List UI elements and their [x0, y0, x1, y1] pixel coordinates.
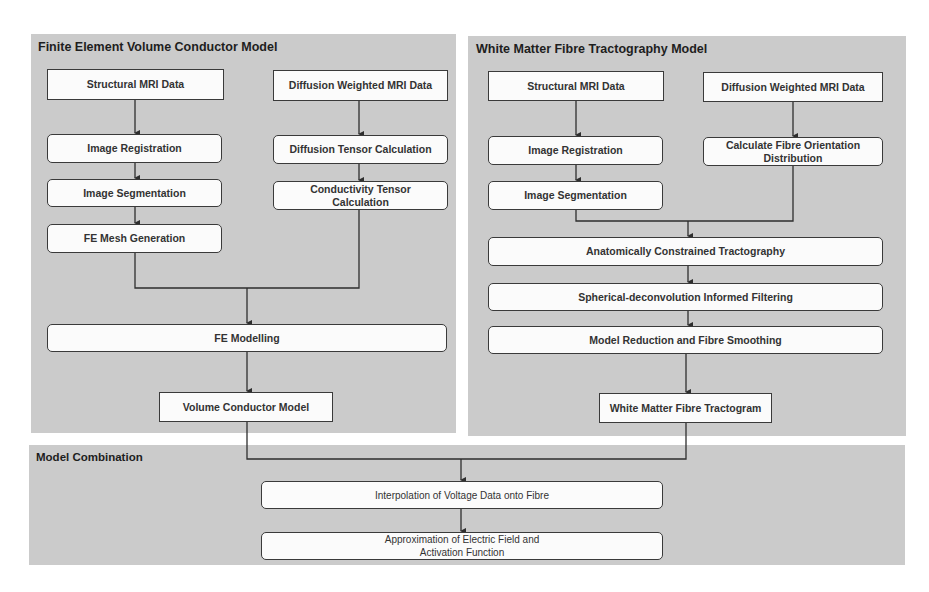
- panel-title-fe: Finite Element Volume Conductor Model: [38, 40, 277, 54]
- wm-image-registration-box: Image Registration: [488, 136, 663, 165]
- fe-image-registration-box: Image Registration: [47, 134, 222, 163]
- wm-fod-box: Calculate Fibre Orientation Distribution: [703, 137, 883, 166]
- approximation-box: Approximation of Electric Field and Acti…: [261, 532, 663, 560]
- panel-title-combo: Model Combination: [36, 451, 143, 463]
- fe-diffusion-tensor-box: Diffusion Tensor Calculation: [273, 135, 448, 164]
- fe-structural-mri-box: Structural MRI Data: [47, 69, 224, 100]
- fe-mesh-generation-box: FE Mesh Generation: [47, 224, 222, 253]
- wm-image-segmentation-box: Image Segmentation: [488, 181, 663, 210]
- interpolation-box: Interpolation of Voltage Data onto Fibre: [261, 481, 663, 509]
- fe-image-segmentation-box: Image Segmentation: [47, 179, 222, 207]
- fe-modelling-box: FE Modelling: [47, 324, 447, 352]
- wm-structural-mri-box: Structural MRI Data: [488, 71, 664, 101]
- wm-sift-box: Spherical-deconvolution Informed Filteri…: [488, 283, 883, 311]
- panel-title-wm: White Matter Fibre Tractography Model: [476, 42, 707, 56]
- wm-tractogram-box: White Matter Fibre Tractogram: [599, 393, 772, 423]
- fe-conductivity-tensor-box: Conductivity Tensor Calculation: [273, 181, 448, 210]
- wm-act-box: Anatomically Constrained Tractography: [488, 237, 883, 266]
- volume-conductor-model-box: Volume Conductor Model: [159, 392, 333, 422]
- wm-model-reduction-box: Model Reduction and Fibre Smoothing: [488, 326, 883, 354]
- wm-diffusion-mri-box: Diffusion Weighted MRI Data: [703, 72, 883, 102]
- fe-diffusion-mri-box: Diffusion Weighted MRI Data: [273, 70, 448, 101]
